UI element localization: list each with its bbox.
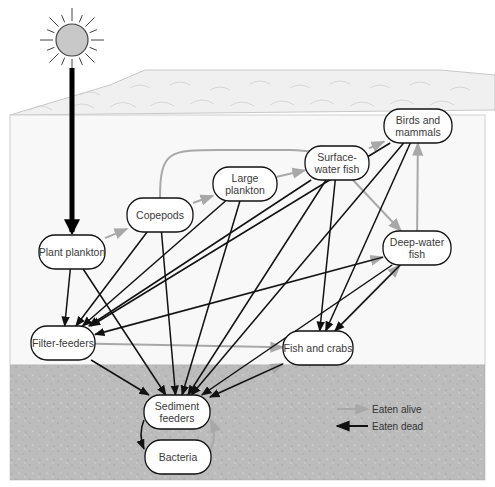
- legend-eaten-alive-label: Eaten alive: [372, 404, 422, 415]
- node-surface-water-fish: Surface-water fish: [305, 146, 369, 180]
- water-surface-waves: [10, 70, 495, 115]
- node-label: Filter-feeders: [32, 337, 94, 349]
- edge-alive-deep-water-fish-to-birds-and-mammals: [417, 143, 418, 231]
- node-label: plankton: [225, 184, 265, 196]
- node-label: Birds and: [396, 114, 441, 126]
- node-birds-and-mammals: Birds andmammals: [384, 109, 452, 143]
- node-label: Large: [232, 172, 259, 184]
- node-label: Deep-water: [390, 236, 445, 248]
- node-label: mammals: [395, 126, 441, 138]
- legend-eaten-dead-label: Eaten dead: [372, 421, 423, 432]
- sun-icon: [40, 8, 104, 72]
- node-label: Copepods: [136, 209, 184, 221]
- node-copepods: Copepods: [127, 198, 193, 232]
- node-label: feeders: [159, 412, 194, 424]
- node-label: Plant plankton: [39, 246, 106, 258]
- node-bacteria: Bacteria: [145, 440, 211, 474]
- node-fish-and-crabs: Fish and crabs: [283, 331, 353, 365]
- food-web-diagram: Plant planktonCopepodsLargeplanktonSurfa…: [0, 0, 495, 487]
- node-plant-plankton: Plant plankton: [39, 235, 106, 269]
- node-sediment-feeders: Sedimentfeeders: [144, 395, 210, 429]
- node-filter-feeders: Filter-feeders: [31, 326, 95, 360]
- node-large-plankton: Largeplankton: [213, 167, 277, 201]
- node-label: Fish and crabs: [284, 342, 353, 354]
- node-label: water fish: [314, 163, 360, 175]
- node-label: Surface-: [317, 151, 357, 163]
- node-deep-water-fish: Deep-waterfish: [383, 231, 451, 265]
- node-label: Bacteria: [159, 451, 198, 463]
- node-label: Sediment: [155, 400, 199, 412]
- node-label: fish: [409, 248, 426, 260]
